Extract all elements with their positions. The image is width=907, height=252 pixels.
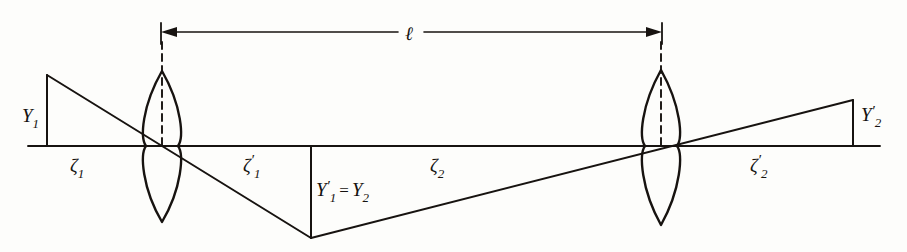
optical-diagram-figure: Y1 Y′1=Y2 Y′2 ζ1 ζ′1: [0, 0, 907, 252]
label-object-distance-2: ζ2: [430, 155, 445, 181]
label-Y2p-sub: 2: [875, 115, 882, 130]
label-image-distance-1: ζ′1: [243, 152, 260, 181]
dimension-arrow-right: [646, 27, 662, 37]
label-intermediate-image: Y′1=Y2: [316, 178, 370, 205]
svg-text:ζ′1: ζ′1: [243, 152, 260, 181]
label-image-distance-2: ζ′2: [750, 152, 768, 181]
label-lens-separation: ℓ: [405, 23, 413, 44]
dimension-arrow-left: [161, 27, 177, 37]
label-ell: ℓ: [405, 23, 413, 44]
label-final-image-height: Y′2: [861, 103, 882, 130]
label-Y2-sub: 2: [363, 190, 370, 205]
svg-text:Y′1=Y2: Y′1=Y2: [316, 178, 370, 205]
label-zeta2-sub: 2: [438, 166, 445, 181]
label-Y1-sub: 1: [33, 116, 40, 131]
svg-text:Y1: Y1: [22, 105, 39, 131]
svg-text:Y′2: Y′2: [861, 103, 882, 130]
label-equals: =: [339, 181, 349, 200]
optical-diagram-canvas: Y1 Y′1=Y2 Y′2 ζ1 ζ′1: [0, 0, 907, 252]
svg-text:ζ1: ζ1: [70, 155, 84, 181]
label-Y1p-sub: 1: [330, 190, 337, 205]
label-object-height: Y1: [22, 105, 39, 131]
svg-text:ζ2: ζ2: [430, 155, 445, 181]
label-zeta2p-sub: 2: [761, 166, 768, 181]
label-zeta1p-sub: 1: [254, 166, 261, 181]
ray-intermediate-to-final-image: [311, 100, 853, 238]
svg-text:ζ′2: ζ′2: [750, 152, 768, 181]
ray-object-to-intermediate-image: [47, 75, 311, 238]
label-object-distance-1: ζ1: [70, 155, 84, 181]
label-zeta1-sub: 1: [78, 166, 85, 181]
